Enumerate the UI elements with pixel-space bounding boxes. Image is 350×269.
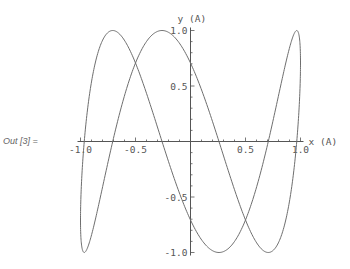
x-axis-label: x (A) <box>309 136 338 147</box>
x-tick-label: 1.0 <box>292 144 309 155</box>
y-axis-label: y (A) <box>178 13 207 24</box>
y-tick-label: -0.5 <box>165 192 188 203</box>
y-tick-label: 1.0 <box>170 25 187 36</box>
x-tick-label: -0.5 <box>124 144 147 155</box>
y-tick-label: -1.0 <box>165 247 188 258</box>
x-tick-label: 0.5 <box>237 144 254 155</box>
y-tick-label: 0.5 <box>170 81 187 92</box>
parametric-plot: -1.0-0.50.51.01.00.5-0.5-1.0 x (A) y (A) <box>0 0 350 269</box>
x-tick-label: -1.0 <box>69 144 92 155</box>
